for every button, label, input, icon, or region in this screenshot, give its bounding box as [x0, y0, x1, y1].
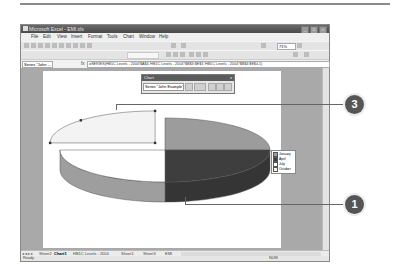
selection-handle[interactable]: [80, 119, 82, 121]
chart-toolbar: Chart x Series "John Example" P: [141, 74, 235, 94]
selection-handle[interactable]: [154, 142, 156, 144]
chart-type-icon[interactable]: [194, 83, 206, 91]
pie-slice-october[interactable]: [50, 111, 155, 143]
pie-chart: [0, 0, 399, 270]
selection-handle[interactable]: [49, 142, 51, 144]
chart-objects-select[interactable]: Series "John Example" P: [143, 83, 184, 91]
callout-3-leader: [116, 104, 344, 105]
callout-1-leader-v: [185, 197, 186, 204]
format-series-icon[interactable]: [185, 83, 193, 91]
by-row-icon[interactable]: [224, 83, 232, 91]
chart-toolbar-title: Chart x: [142, 75, 234, 81]
legend-item: October: [273, 167, 294, 172]
pie-slice-january[interactable]: [165, 118, 270, 150]
chart-toolbar-close[interactable]: x: [230, 75, 232, 81]
callout-3: 3: [345, 95, 364, 114]
chart-legend[interactable]: January April July October: [271, 150, 296, 174]
data-table-icon[interactable]: [216, 83, 224, 91]
callout-1: 1: [345, 195, 364, 214]
selection-handle[interactable]: [154, 110, 156, 112]
legend-icon[interactable]: [208, 83, 216, 91]
callout-1-leader: [185, 204, 344, 205]
